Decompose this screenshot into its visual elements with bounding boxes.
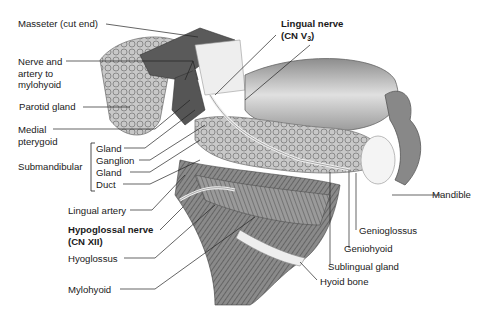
label-mylohyoid: Mylohyoid [68, 284, 111, 296]
label-hyoid-bone: Hyoid bone [320, 276, 369, 288]
label-geniohyoid: Geniohyoid [344, 243, 393, 255]
label-parotid: Parotid gland [19, 101, 76, 113]
illustration [0, 0, 487, 313]
label-line: Medial [18, 124, 57, 136]
label-ganglion: Ganglion [96, 155, 134, 167]
label-medial-pterygoid: Medial pterygoid [18, 124, 57, 147]
label-line: Nerve and [18, 56, 62, 68]
label-sublingual-gland: Sublingual gland [328, 261, 399, 273]
label-line: (CN V3) [281, 30, 343, 45]
mandible-shape [361, 136, 395, 184]
label-lingual-nerve: Lingual nerve (CN V3) [281, 18, 343, 44]
label-hyoglossus: Hyoglossus [68, 253, 118, 265]
label-line: (CN XII) [68, 236, 153, 248]
label-line: artery to [18, 68, 62, 80]
label-duct: Duct [96, 179, 116, 191]
label-part: (CN V [281, 30, 307, 41]
anatomy-figure: Masseter (cut end) Nerve and artery to m… [0, 0, 487, 313]
label-hypoglossal-nerve: Hypoglossal nerve (CN XII) [68, 224, 153, 247]
submandibular-bracket [91, 143, 95, 191]
label-gland-1: Gland [96, 143, 122, 155]
label-nerve-artery-mylohyoid: Nerve and artery to mylohyoid [18, 56, 62, 91]
label-mandible: Mandible [432, 189, 471, 201]
label-line: mylohyoid [18, 79, 62, 91]
label-genioglossus: Genioglossus [359, 225, 417, 237]
label-line: Hypoglossal nerve [68, 224, 153, 236]
medial-pterygoid-shape [172, 70, 205, 125]
label-submandibular: Submandibular [18, 161, 83, 173]
label-masseter: Masseter (cut end) [18, 18, 98, 30]
label-line: Lingual nerve [281, 18, 343, 30]
label-part: ) [311, 30, 314, 41]
label-gland-2: Gland [96, 167, 122, 179]
label-lingual-artery: Lingual artery [68, 205, 126, 217]
label-line: pterygoid [18, 136, 57, 148]
